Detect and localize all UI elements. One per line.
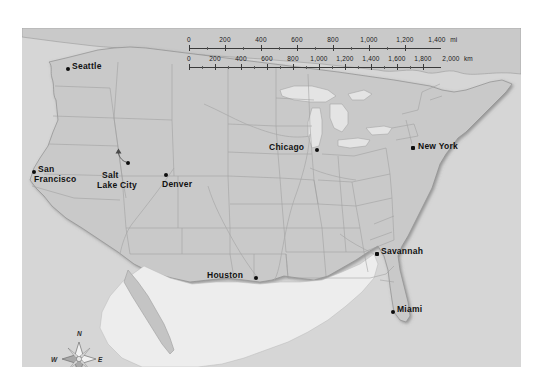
compass-label-north: N bbox=[77, 330, 82, 337]
city-label-seattle: Seattle bbox=[72, 62, 102, 72]
map-canvas bbox=[22, 28, 521, 367]
city-label-houston: Houston bbox=[207, 271, 243, 281]
scale-tick-km-2000: 2,000 bbox=[442, 55, 459, 62]
scale-unit-miles: mi bbox=[450, 36, 457, 43]
city-label-miami: Miami bbox=[397, 305, 422, 315]
city-dot-houston bbox=[254, 276, 258, 280]
scale-tick-km-1000: 1,000 bbox=[310, 55, 327, 62]
city-label-savannah: Savannah bbox=[381, 247, 423, 257]
city-dot-seattle bbox=[66, 67, 70, 71]
scale-tick-km-200: 200 bbox=[209, 55, 220, 62]
city-label-line: Lake City bbox=[97, 181, 137, 191]
city-label-line: Francisco bbox=[34, 175, 76, 185]
scale-tick-mi-200: 200 bbox=[219, 36, 230, 43]
scale-tick-mi-0: 0 bbox=[187, 36, 191, 43]
city-dot-denver bbox=[164, 173, 168, 177]
compass-rose: N S E W bbox=[48, 328, 110, 367]
scale-unit-kilometers: km bbox=[464, 55, 473, 62]
city-label-line: Salt bbox=[102, 170, 119, 180]
city-dot-miami bbox=[391, 310, 395, 314]
city-label-salt-lake-city: Salt Lake City bbox=[102, 171, 137, 190]
city-label-denver: Denver bbox=[162, 180, 192, 190]
scale-tick-km-600: 600 bbox=[261, 55, 272, 62]
city-dot-chicago bbox=[315, 148, 319, 152]
scale-tick-mi-800: 800 bbox=[327, 36, 338, 43]
scale-axis-km bbox=[189, 67, 441, 68]
city-dot-savannah bbox=[375, 252, 379, 256]
scale-tick-mi-400: 400 bbox=[255, 36, 266, 43]
scale-tick-mi-1400: 1,400 bbox=[428, 36, 445, 43]
scale-tick-mi-1200: 1,200 bbox=[396, 36, 413, 43]
scale-tick-mi-1000: 1,000 bbox=[360, 36, 377, 43]
scale-tick-km-1600: 1,600 bbox=[388, 55, 405, 62]
map-figure: Seattle San Francisco Salt Lake City Den… bbox=[22, 28, 521, 367]
scale-tick-km-1800: 1,800 bbox=[414, 55, 431, 62]
scale-tick-km-800: 800 bbox=[287, 55, 298, 62]
city-label-san-francisco: San Francisco bbox=[38, 165, 76, 184]
city-dot-new-york bbox=[411, 146, 415, 150]
scale-tick-km-400: 400 bbox=[235, 55, 246, 62]
scale-tick-km-0: 0 bbox=[187, 55, 191, 62]
city-label-line: San bbox=[38, 164, 54, 174]
scale-tick-mi-600: 600 bbox=[291, 36, 302, 43]
city-label-chicago: Chicago bbox=[269, 143, 304, 153]
scale-tick-km-1200: 1,200 bbox=[336, 55, 353, 62]
scale-bar: 0 200 400 600 800 1,000 1,200 1,400 mi bbox=[185, 36, 445, 74]
scale-tick-km-1400: 1,400 bbox=[362, 55, 379, 62]
city-dot-salt-lake-city bbox=[126, 161, 130, 165]
scale-bar-miles: 0 200 400 600 800 1,000 1,200 1,400 mi bbox=[185, 36, 445, 54]
compass-label-east: E bbox=[98, 356, 102, 363]
city-label-new-york: New York bbox=[418, 142, 458, 152]
compass-label-west: W bbox=[51, 356, 57, 363]
scale-bar-kilometers: 0 200 400 600 800 1,000 1,200 1,400 1,60… bbox=[185, 55, 445, 73]
